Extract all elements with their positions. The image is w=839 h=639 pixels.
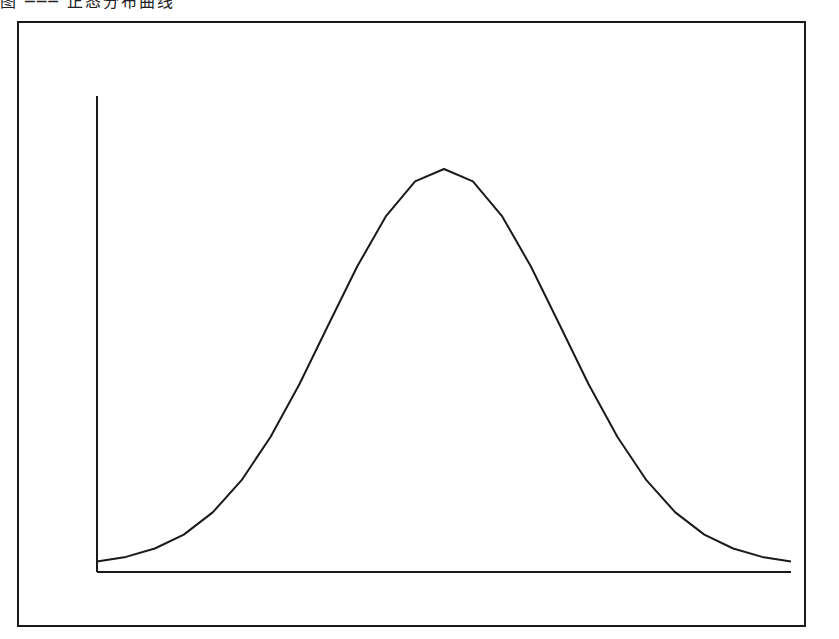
- bell-curve-line: [97, 169, 791, 562]
- chart-canvas: [0, 0, 839, 639]
- chart-frame: [18, 22, 805, 626]
